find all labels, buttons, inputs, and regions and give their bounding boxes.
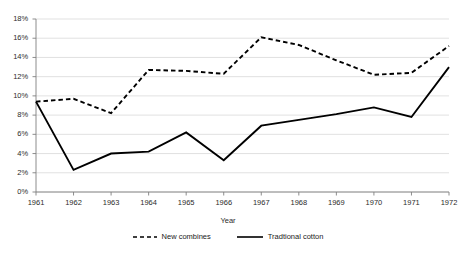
legend-label-new-combines: New combines	[162, 232, 211, 241]
x-axis-tick-label: 1969	[316, 198, 356, 207]
x-axis-tick-label: 1971	[391, 198, 431, 207]
y-axis-tick-label: 6%	[2, 129, 28, 138]
y-axis-tick-label: 12%	[2, 72, 28, 81]
x-axis-tick-label: 1964	[129, 198, 169, 207]
y-axis-tick-label: 2%	[2, 168, 28, 177]
y-axis-tick-label: 16%	[2, 33, 28, 42]
y-axis-tick-label: 14%	[2, 52, 28, 61]
gridlines	[36, 19, 449, 192]
y-axis-tick-label: 10%	[2, 91, 28, 100]
chart-legend: New combines Tradtional cotton	[0, 232, 456, 241]
x-axis-tick-label: 1961	[16, 198, 56, 207]
x-axis-tick-label: 1963	[91, 198, 131, 207]
legend-swatch-solid-icon	[237, 233, 263, 241]
x-axis-tick-label: 1966	[204, 198, 244, 207]
x-axis-tick-label: 1972	[429, 198, 462, 207]
legend-item-traditional-cotton: Tradtional cotton	[237, 232, 324, 241]
y-axis-tick-label: 0%	[2, 187, 28, 196]
x-axis-tick-label: 1967	[241, 198, 281, 207]
x-axis-tick-label: 1968	[279, 198, 319, 207]
y-axis-tick-label: 18%	[2, 14, 28, 23]
x-axis-tick-label: 1965	[166, 198, 206, 207]
series-line-new-combines	[36, 37, 449, 113]
y-axis-tick-label: 8%	[2, 110, 28, 119]
legend-label-traditional-cotton: Tradtional cotton	[268, 232, 324, 241]
series-line-tradtional-cotton	[36, 67, 449, 170]
x-axis-tick-label: 1962	[54, 198, 94, 207]
legend-swatch-dashed-icon	[133, 233, 157, 241]
x-axis-tick-label: 1970	[354, 198, 394, 207]
y-axis-tick-label: 4%	[2, 149, 28, 158]
legend-item-new-combines: New combines	[133, 232, 211, 241]
x-axis-title: Year	[0, 216, 456, 225]
